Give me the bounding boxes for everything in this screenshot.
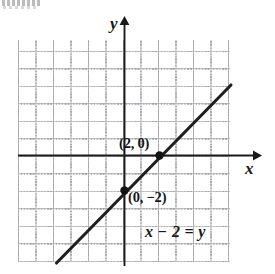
graph-figure: y x (2, 0) (0, −2) x − 2 = y xyxy=(0,0,275,274)
y-axis-label: y xyxy=(110,14,118,34)
equation-label: x − 2 = y xyxy=(145,223,206,241)
x-axis xyxy=(18,151,262,161)
y-axis-arrowhead-icon xyxy=(120,16,130,25)
x-axis-label: x xyxy=(245,159,254,179)
point-label-0-neg2: (0, −2) xyxy=(128,189,166,206)
data-point-2-0 xyxy=(155,151,163,159)
point-label-2-0: (2, 0) xyxy=(119,135,149,152)
x-axis-arrowhead-icon xyxy=(253,151,262,161)
